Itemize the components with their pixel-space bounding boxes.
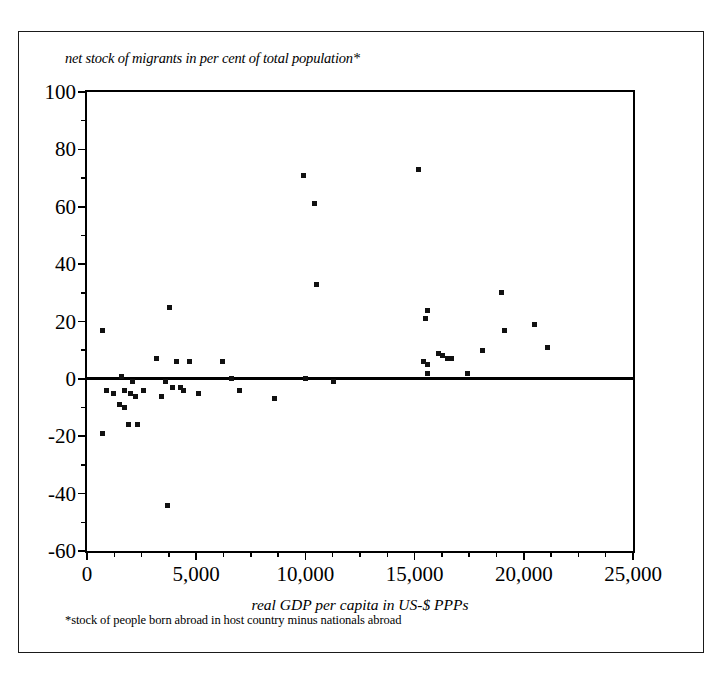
y-axis-minor-tick bbox=[81, 177, 87, 179]
y-axis-tick-label: 60 bbox=[55, 196, 76, 217]
scatter-point bbox=[423, 316, 428, 321]
x-axis-minor-tick bbox=[114, 551, 116, 557]
x-axis-minor-tick bbox=[277, 551, 279, 557]
x-axis-tick-label: 0 bbox=[82, 564, 93, 585]
y-axis-minor-tick bbox=[81, 522, 87, 524]
scatter-point bbox=[174, 359, 179, 364]
scatter-point bbox=[532, 322, 537, 327]
plot-title: net stock of migrants in per cent of tot… bbox=[65, 50, 360, 67]
y-axis-tick-label: 40 bbox=[55, 254, 76, 275]
figure-frame: net stock of migrants in per cent of tot… bbox=[18, 31, 704, 653]
scatter-point bbox=[499, 290, 504, 295]
y-axis-major-tick bbox=[78, 263, 87, 265]
scatter-point bbox=[141, 388, 146, 393]
scatter-point bbox=[331, 379, 336, 384]
scatter-point bbox=[100, 431, 105, 436]
scatter-point bbox=[181, 388, 186, 393]
x-axis-minor-tick bbox=[250, 551, 252, 557]
x-axis-minor-tick bbox=[223, 551, 225, 557]
scatter-point bbox=[154, 356, 159, 361]
y-axis-major-tick bbox=[78, 493, 87, 495]
x-axis-tick-label: 20,000 bbox=[495, 564, 553, 585]
scatter-point bbox=[104, 388, 109, 393]
scatter-point bbox=[545, 345, 550, 350]
scatter-point bbox=[303, 376, 308, 381]
y-axis-minor-tick bbox=[81, 407, 87, 409]
scatter-point bbox=[122, 405, 127, 410]
y-axis-major-tick bbox=[78, 321, 87, 323]
y-axis-minor-tick bbox=[81, 349, 87, 351]
scatter-point bbox=[159, 394, 164, 399]
y-axis-minor-tick bbox=[81, 292, 87, 294]
scatter-point bbox=[314, 282, 319, 287]
scatter-point bbox=[111, 391, 116, 396]
y-axis-tick-label: 100 bbox=[45, 82, 77, 103]
x-axis-minor-tick bbox=[605, 551, 607, 557]
x-axis-major-tick bbox=[195, 551, 197, 560]
y-axis-tick-label: -60 bbox=[48, 541, 76, 562]
scatter-point bbox=[229, 376, 234, 381]
scatter-point bbox=[220, 359, 225, 364]
scatter-point bbox=[122, 388, 127, 393]
scatter-point bbox=[170, 385, 175, 390]
x-axis-minor-tick bbox=[141, 551, 143, 557]
scatter-point bbox=[312, 201, 317, 206]
y-axis-minor-tick bbox=[81, 120, 87, 122]
x-axis-minor-tick bbox=[332, 551, 334, 557]
y-axis-major-tick bbox=[78, 378, 87, 380]
y-axis-major-tick bbox=[78, 149, 87, 151]
y-axis-major-tick bbox=[78, 435, 87, 437]
scatter-point bbox=[196, 391, 201, 396]
x-axis-title: real GDP per capita in US-$ PPPs bbox=[252, 596, 469, 614]
scatter-point bbox=[133, 394, 138, 399]
x-axis-minor-tick bbox=[359, 551, 361, 557]
scatter-point bbox=[416, 167, 421, 172]
x-axis-minor-tick bbox=[468, 551, 470, 557]
scatter-point bbox=[167, 305, 172, 310]
y-axis-tick-label: 20 bbox=[55, 311, 76, 332]
x-axis-major-tick bbox=[305, 551, 307, 560]
x-axis-tick-label: 25,000 bbox=[604, 564, 662, 585]
scatter-point bbox=[130, 379, 135, 384]
y-axis-minor-tick bbox=[81, 464, 87, 466]
scatter-point bbox=[126, 422, 131, 427]
scatter-point bbox=[480, 348, 485, 353]
x-axis-major-tick bbox=[414, 551, 416, 560]
scatter-point bbox=[449, 356, 454, 361]
y-axis-tick-label: -20 bbox=[48, 426, 76, 447]
scatter-point bbox=[237, 388, 242, 393]
scatter-point bbox=[425, 371, 430, 376]
y-axis-minor-tick bbox=[81, 235, 87, 237]
x-axis-tick-label: 10,000 bbox=[277, 564, 335, 585]
x-axis-tick-label: 15,000 bbox=[386, 564, 444, 585]
scatter-point bbox=[502, 328, 507, 333]
scatter-point bbox=[272, 396, 277, 401]
y-axis-tick-label: 80 bbox=[55, 139, 76, 160]
x-axis-minor-tick bbox=[168, 551, 170, 557]
x-axis-tick-label: 5,000 bbox=[173, 564, 220, 585]
y-axis-major-tick bbox=[78, 206, 87, 208]
x-axis-minor-tick bbox=[387, 551, 389, 557]
y-axis-tick-label: 0 bbox=[66, 368, 77, 389]
scatter-point bbox=[119, 374, 124, 379]
x-axis-minor-tick bbox=[550, 551, 552, 557]
x-axis-minor-tick bbox=[441, 551, 443, 557]
scatter-point bbox=[301, 173, 306, 178]
plot-area: -60-40-20020406080100 05,00010,00015,000… bbox=[85, 90, 635, 553]
scatter-point bbox=[187, 359, 192, 364]
x-axis-minor-tick bbox=[496, 551, 498, 557]
y-axis-tick-label: -40 bbox=[48, 483, 76, 504]
figure-footnote: *stock of people born abroad in host cou… bbox=[65, 613, 401, 628]
x-axis-major-tick bbox=[523, 551, 525, 560]
scatter-point bbox=[100, 328, 105, 333]
scatter-point bbox=[425, 362, 430, 367]
scatter-point bbox=[135, 422, 140, 427]
x-axis-minor-tick bbox=[578, 551, 580, 557]
zero-reference-line bbox=[87, 377, 633, 380]
scatter-point bbox=[165, 503, 170, 508]
scatter-point bbox=[425, 308, 430, 313]
x-axis-major-tick bbox=[86, 551, 88, 560]
scatter-point bbox=[163, 379, 168, 384]
y-axis-major-tick bbox=[78, 91, 87, 93]
scatter-point bbox=[465, 371, 470, 376]
